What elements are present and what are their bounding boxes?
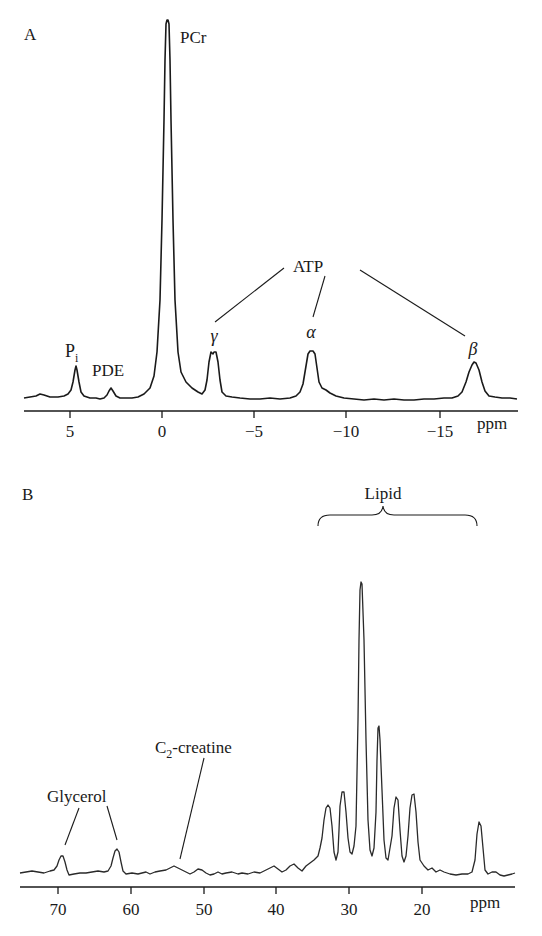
panel-a-tick-label: −10: [333, 422, 360, 441]
panel-a-tick-label: −15: [427, 422, 454, 441]
nmr-figure: A 5 0 −5 −10 −15 ppm PCr Pi PDE ATP γ α …: [0, 0, 542, 936]
panel-b-tick-label: 50: [196, 900, 213, 919]
panel-b-tick-label: 60: [123, 900, 140, 919]
glycerol-leader-2: [107, 806, 117, 840]
panel-b: B Lipid 70 60 50 40 30 20 ppm Glycerol C…: [20, 484, 515, 919]
lipid-label: Lipid: [365, 484, 402, 503]
c2-creatine-leader: [180, 758, 204, 859]
panel-b-letter: B: [22, 485, 33, 504]
pi-label: Pi: [65, 341, 79, 365]
glycerol-leader-1: [65, 808, 79, 845]
atp-beta-leader: [360, 270, 465, 336]
panel-a-spectrum-trace: [24, 20, 517, 400]
panel-b-tick-label: 20: [414, 900, 431, 919]
gamma-label: γ: [210, 326, 218, 346]
panel-a-tick-label: 0: [158, 422, 167, 441]
panel-a-tick-label: −5: [245, 422, 263, 441]
atp-label: ATP: [293, 257, 323, 276]
panel-b-tick-label: 40: [268, 900, 285, 919]
lipid-brace: [318, 506, 477, 526]
panel-a: A 5 0 −5 −10 −15 ppm PCr Pi PDE ATP γ α …: [24, 20, 518, 441]
panel-a-letter: A: [24, 25, 37, 44]
atp-alpha-leader: [313, 276, 325, 317]
panel-a-tick-label: 5: [66, 422, 75, 441]
panel-b-tick-label: 70: [50, 900, 67, 919]
alpha-label: α: [306, 322, 316, 342]
pcr-label: PCr: [180, 28, 207, 47]
beta-label: β: [468, 339, 478, 359]
glycerol-label: Glycerol: [47, 787, 107, 806]
panel-b-spectrum-trace: [20, 582, 515, 876]
atp-gamma-leader: [215, 268, 284, 322]
panel-b-unit-label: ppm: [470, 893, 500, 912]
pde-label: PDE: [92, 361, 124, 380]
panel-a-unit-label: ppm: [477, 414, 507, 433]
c2-creatine-label: C2-creatine: [155, 738, 232, 761]
panel-b-tick-label: 30: [341, 900, 358, 919]
